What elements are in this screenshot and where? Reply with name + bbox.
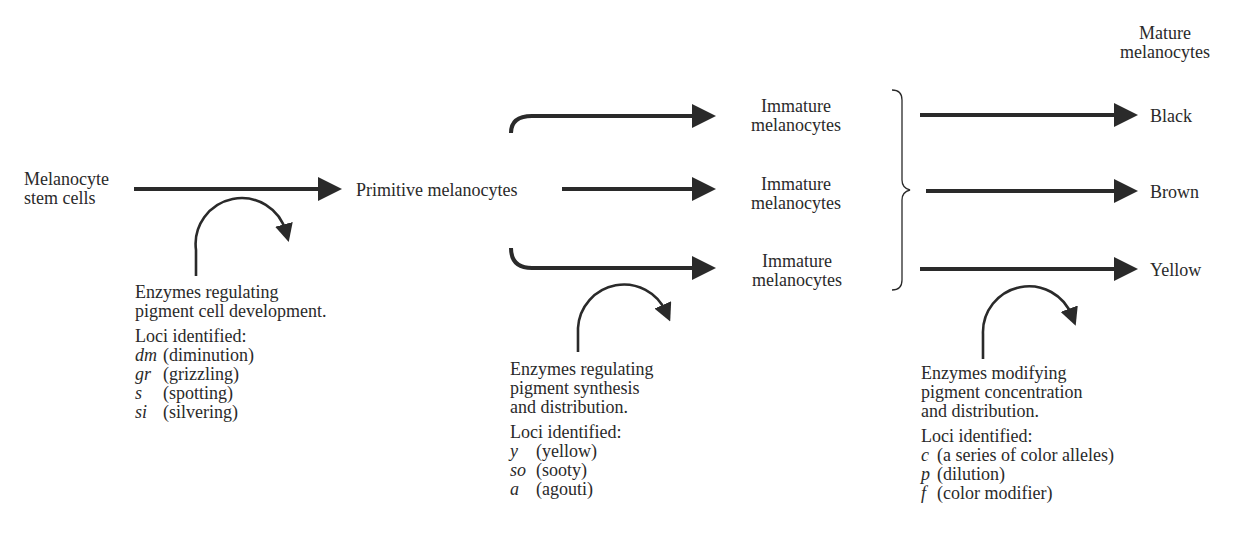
curved-arrow-3 bbox=[983, 286, 1072, 359]
node-immature-3-line2: melanocytes bbox=[727, 271, 867, 290]
curved-arrow-2 bbox=[578, 285, 666, 352]
locus-item: y(yellow) bbox=[510, 442, 653, 461]
locus-item: gr(grizzling) bbox=[135, 365, 326, 384]
annotation-3-desc-line1: Enzymes modifying bbox=[921, 364, 1114, 383]
annotation-1-desc-line1: Enzymes regulating bbox=[135, 283, 326, 302]
locus-name: (diminution) bbox=[163, 346, 254, 365]
annotation-2-loci-header: Loci identified: bbox=[510, 423, 653, 442]
annotation-pigment-synthesis: Enzymes regulating pigment synthesis and… bbox=[510, 360, 653, 499]
locus-item: c(a series of color alleles) bbox=[921, 446, 1114, 465]
locus-item: si(silvering) bbox=[135, 403, 326, 422]
node-immature-1: Immature melanocytes bbox=[726, 97, 866, 135]
mature-header-line2: melanocytes bbox=[1090, 43, 1240, 62]
annotation-pigment-cell-development: Enzymes regulating pigment cell developm… bbox=[135, 283, 326, 422]
node-immature-2: Immature melanocytes bbox=[726, 175, 866, 213]
locus-name: (agouti) bbox=[536, 480, 593, 499]
locus-symbol: c bbox=[921, 446, 937, 465]
locus-symbol: y bbox=[510, 442, 536, 461]
node-brown: Brown bbox=[1150, 183, 1199, 202]
annotation-3-desc-line3: and distribution. bbox=[921, 402, 1114, 421]
locus-name: (a series of color alleles) bbox=[937, 446, 1114, 465]
mature-melanocytes-header: Mature melanocytes bbox=[1090, 24, 1240, 62]
annotation-2-desc-line2: pigment synthesis bbox=[510, 379, 653, 398]
node-immature-2-line1: Immature bbox=[726, 175, 866, 194]
node-stem-line2: stem cells bbox=[24, 189, 109, 208]
annotation-2-desc-line1: Enzymes regulating bbox=[510, 360, 653, 379]
locus-symbol: dm bbox=[135, 346, 163, 365]
locus-symbol: a bbox=[510, 480, 536, 499]
annotation-2-desc-line3: and distribution. bbox=[510, 398, 653, 417]
node-immature-3-line1: Immature bbox=[727, 252, 867, 271]
locus-symbol: f bbox=[921, 484, 937, 503]
locus-item: dm(diminution) bbox=[135, 346, 326, 365]
locus-symbol: si bbox=[135, 403, 163, 422]
mature-header-line1: Mature bbox=[1090, 24, 1240, 43]
node-stem-line1: Melanocyte bbox=[24, 170, 109, 189]
locus-item: a(agouti) bbox=[510, 480, 653, 499]
locus-name: (spotting) bbox=[163, 384, 233, 403]
locus-item: s(spotting) bbox=[135, 384, 326, 403]
arrow-primitive-to-immature-1 bbox=[511, 116, 712, 133]
locus-item: so(sooty) bbox=[510, 461, 653, 480]
node-immature-1-line2: melanocytes bbox=[726, 116, 866, 135]
node-black: Black bbox=[1150, 107, 1192, 126]
annotation-pigment-concentration: Enzymes modifying pigment concentration … bbox=[921, 364, 1114, 503]
node-immature-1-line1: Immature bbox=[726, 97, 866, 116]
brace bbox=[892, 90, 910, 290]
locus-symbol: s bbox=[135, 384, 163, 403]
annotation-1-loci-header: Loci identified: bbox=[135, 327, 326, 346]
locus-name: (sooty) bbox=[536, 461, 587, 480]
locus-name: (grizzling) bbox=[163, 365, 239, 384]
locus-item: f(color modifier) bbox=[921, 484, 1114, 503]
arrow-primitive-to-immature-3 bbox=[511, 248, 712, 268]
annotation-3-desc-line2: pigment concentration bbox=[921, 383, 1114, 402]
node-immature-2-line2: melanocytes bbox=[726, 194, 866, 213]
annotation-1-desc-line2: pigment cell development. bbox=[135, 302, 326, 321]
annotation-3-loci-header: Loci identified: bbox=[921, 427, 1114, 446]
locus-name: (color modifier) bbox=[937, 484, 1052, 503]
locus-symbol: gr bbox=[135, 365, 163, 384]
locus-symbol: p bbox=[921, 465, 937, 484]
node-stem-cells: Melanocyte stem cells bbox=[24, 170, 109, 208]
node-immature-3: Immature melanocytes bbox=[727, 252, 867, 290]
locus-item: p(dilution) bbox=[921, 465, 1114, 484]
locus-name: (silvering) bbox=[163, 403, 238, 422]
node-primitive-melanocytes: Primitive melanocytes bbox=[356, 181, 517, 200]
node-yellow: Yellow bbox=[1150, 261, 1201, 280]
locus-symbol: so bbox=[510, 461, 536, 480]
locus-name: (yellow) bbox=[536, 442, 597, 461]
locus-name: (dilution) bbox=[937, 465, 1005, 484]
curved-arrow-1 bbox=[196, 198, 286, 276]
